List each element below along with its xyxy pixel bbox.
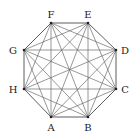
vertex-label-G: G (9, 45, 17, 56)
vertex-H (23, 88, 26, 91)
vertex-B (87, 116, 90, 119)
vertex-C (115, 88, 118, 91)
edge-DE (88, 23, 116, 50)
edge-BC (88, 89, 116, 117)
edge-AC (51, 89, 116, 117)
vertex-label-D: D (121, 45, 129, 56)
edge-CF (51, 23, 116, 89)
edge-BG (24, 50, 88, 117)
vertex-label-B: B (84, 122, 91, 133)
edge-DF (51, 23, 116, 50)
vertex-A (50, 116, 53, 119)
vertices-group (23, 22, 118, 119)
vertex-label-A: A (46, 122, 55, 133)
vertex-label-E: E (84, 9, 91, 20)
edges-group (24, 23, 116, 117)
edge-EG (24, 23, 88, 50)
vertex-label-H: H (9, 84, 18, 95)
edge-AD (51, 50, 116, 117)
vertex-G (23, 49, 26, 52)
vertex-D (115, 49, 118, 52)
complete-graph-diagram: ABCDEFGH (0, 0, 135, 138)
edge-EH (24, 23, 88, 89)
vertex-F (50, 22, 53, 25)
edge-FG (24, 23, 51, 50)
edge-AH (24, 89, 51, 117)
vertex-label-C: C (121, 84, 129, 95)
vertex-label-F: F (48, 9, 55, 20)
vertex-E (87, 22, 90, 25)
